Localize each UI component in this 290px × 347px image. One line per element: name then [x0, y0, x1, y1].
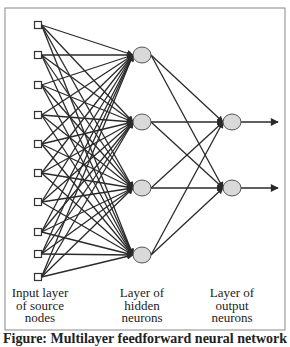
input-node	[35, 170, 42, 177]
connection-edge	[42, 188, 134, 277]
input-node	[35, 199, 42, 206]
output-arrows	[241, 122, 278, 188]
input-node	[35, 82, 42, 89]
input-node	[35, 251, 42, 258]
input-node	[35, 22, 42, 29]
hidden-layer-label: Layer of hidden neurons	[97, 287, 187, 325]
input-node	[35, 52, 42, 59]
input-node	[35, 274, 42, 281]
input-node	[35, 229, 42, 236]
input-layer-nodes	[35, 22, 42, 281]
output-neuron	[223, 180, 241, 196]
hidden-layer-neurons	[133, 47, 151, 263]
output-layer-neurons	[223, 114, 241, 196]
connection-edge	[42, 55, 134, 232]
connection-edge	[151, 188, 223, 255]
hidden-neuron	[133, 247, 151, 263]
connection-edge	[151, 55, 223, 122]
input-hidden-connections	[42, 25, 134, 277]
input-label-line-3: nodes	[0, 312, 85, 325]
hidden-output-connections	[151, 55, 223, 255]
input-layer-label: Input layer of source nodes	[0, 287, 85, 325]
hidden-label-line-3: neurons	[97, 312, 187, 325]
input-node	[35, 141, 42, 148]
output-label-line-3: neurons	[187, 312, 277, 325]
output-layer-label: Layer of output neurons	[187, 287, 277, 325]
connection-edge	[42, 85, 134, 255]
connection-edge	[42, 255, 134, 277]
output-neuron	[223, 114, 241, 130]
hidden-neuron	[133, 114, 151, 130]
hidden-neuron	[133, 180, 151, 196]
figure-caption: Figure: Multilayer feedforward neural ne…	[0, 331, 290, 347]
hidden-neuron	[133, 47, 151, 63]
input-node	[35, 112, 42, 119]
